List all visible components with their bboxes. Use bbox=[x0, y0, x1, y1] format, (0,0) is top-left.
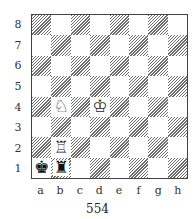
file-label: c bbox=[70, 184, 89, 197]
square-h5 bbox=[168, 76, 187, 96]
square-e7 bbox=[110, 35, 129, 55]
file-label: h bbox=[168, 184, 187, 197]
square-f2 bbox=[129, 137, 148, 157]
file-label: a bbox=[31, 184, 50, 197]
black-king-icon: ♚ bbox=[32, 158, 51, 178]
square-f3 bbox=[129, 117, 148, 137]
rank-label: 7 bbox=[12, 39, 24, 52]
chess-diagram: ♘♔♖♚♜ bbox=[31, 14, 188, 179]
square-a1: ♚ bbox=[32, 158, 51, 178]
rank-label: 4 bbox=[12, 101, 24, 114]
square-g6 bbox=[148, 56, 167, 76]
square-b4: ♘ bbox=[51, 97, 70, 117]
square-e3 bbox=[110, 117, 129, 137]
rank-label: 3 bbox=[12, 121, 24, 134]
white-rook-icon: ♖ bbox=[51, 137, 70, 157]
square-a4 bbox=[32, 97, 51, 117]
square-e2 bbox=[110, 137, 129, 157]
piece-glyph: ♔ bbox=[92, 98, 107, 115]
square-d5 bbox=[90, 76, 109, 96]
square-e4 bbox=[110, 97, 129, 117]
square-h7 bbox=[168, 35, 187, 55]
square-c8 bbox=[71, 15, 90, 35]
rank-label: 5 bbox=[12, 80, 24, 93]
square-c6 bbox=[71, 56, 90, 76]
square-e8 bbox=[110, 15, 129, 35]
square-b6 bbox=[51, 56, 70, 76]
square-d3 bbox=[90, 117, 109, 137]
black-rook-icon: ♜ bbox=[51, 158, 70, 178]
square-b5 bbox=[51, 76, 70, 96]
square-b1: ♜ bbox=[51, 158, 70, 178]
square-a2 bbox=[32, 137, 51, 157]
piece-glyph: ♜ bbox=[53, 159, 68, 176]
square-d2 bbox=[90, 137, 109, 157]
square-h2 bbox=[168, 137, 187, 157]
square-f7 bbox=[129, 35, 148, 55]
square-a3 bbox=[32, 117, 51, 137]
white-king-icon: ♔ bbox=[90, 97, 109, 117]
square-d6 bbox=[90, 56, 109, 76]
square-f5 bbox=[129, 76, 148, 96]
square-f8 bbox=[129, 15, 148, 35]
square-g5 bbox=[148, 76, 167, 96]
square-h8 bbox=[168, 15, 187, 35]
square-b2: ♖ bbox=[51, 137, 70, 157]
square-g1 bbox=[148, 158, 167, 178]
square-c2 bbox=[71, 137, 90, 157]
square-g7 bbox=[148, 35, 167, 55]
square-f1 bbox=[129, 158, 148, 178]
square-h1 bbox=[168, 158, 187, 178]
diagram-caption: 554 bbox=[0, 202, 195, 216]
file-label: e bbox=[110, 184, 129, 197]
square-f4 bbox=[129, 97, 148, 117]
rank-label: 8 bbox=[12, 18, 24, 31]
file-label: d bbox=[90, 184, 109, 197]
square-c3 bbox=[71, 117, 90, 137]
white-knight-icon: ♘ bbox=[51, 97, 70, 117]
square-a6 bbox=[32, 56, 51, 76]
square-b3 bbox=[51, 117, 70, 137]
piece-glyph: ♘ bbox=[53, 98, 68, 115]
square-g2 bbox=[148, 137, 167, 157]
square-e5 bbox=[110, 76, 129, 96]
square-e1 bbox=[110, 158, 129, 178]
square-c1 bbox=[71, 158, 90, 178]
square-c7 bbox=[71, 35, 90, 55]
square-d4: ♔ bbox=[90, 97, 109, 117]
chessboard: ♘♔♖♚♜ bbox=[31, 14, 188, 179]
square-c4 bbox=[71, 97, 90, 117]
square-h6 bbox=[168, 56, 187, 76]
rank-label: 2 bbox=[12, 142, 24, 155]
square-d8 bbox=[90, 15, 109, 35]
rank-label: 1 bbox=[12, 162, 24, 175]
rank-label: 6 bbox=[12, 59, 24, 72]
file-label: g bbox=[149, 184, 168, 197]
square-a8 bbox=[32, 15, 51, 35]
square-h3 bbox=[168, 117, 187, 137]
square-g4 bbox=[148, 97, 167, 117]
square-g3 bbox=[148, 117, 167, 137]
square-a7 bbox=[32, 35, 51, 55]
square-d1 bbox=[90, 158, 109, 178]
square-f6 bbox=[129, 56, 148, 76]
square-h4 bbox=[168, 97, 187, 117]
file-label: b bbox=[51, 184, 70, 197]
piece-glyph: ♚ bbox=[34, 159, 49, 176]
square-b8 bbox=[51, 15, 70, 35]
file-label: f bbox=[129, 184, 148, 197]
square-b7 bbox=[51, 35, 70, 55]
square-a5 bbox=[32, 76, 51, 96]
piece-glyph: ♖ bbox=[53, 139, 68, 156]
square-g8 bbox=[148, 15, 167, 35]
square-e6 bbox=[110, 56, 129, 76]
square-d7 bbox=[90, 35, 109, 55]
square-c5 bbox=[71, 76, 90, 96]
